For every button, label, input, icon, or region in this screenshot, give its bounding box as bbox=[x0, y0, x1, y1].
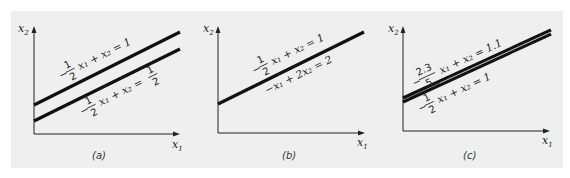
y-axis-label: x2 bbox=[18, 22, 29, 37]
x-axis-arrow-icon bbox=[173, 132, 180, 137]
y-axis-label: x2 bbox=[388, 22, 399, 37]
x-axis-label: x1 bbox=[357, 136, 368, 151]
panel-caption-b: (b) bbox=[282, 150, 296, 161]
panel-a: x2 x1 1 2 − x₁ + x₂ = 1 1 2 − x₁ + x₂ = … bbox=[18, 22, 183, 161]
svg-text:2: 2 bbox=[151, 75, 162, 88]
figure-canvas: x2 x1 1 2 − x₁ + x₂ = 1 1 2 − x₁ + x₂ = … bbox=[0, 0, 570, 178]
line-b-coincident bbox=[218, 32, 364, 104]
svg-text:x₁ + x₂ = 1: x₁ + x₂ = 1 bbox=[75, 35, 132, 72]
x-axis-arrow-icon bbox=[358, 131, 365, 136]
svg-text:2: 2 bbox=[68, 70, 79, 83]
x-axis-label: x1 bbox=[172, 138, 183, 153]
svg-text:2: 2 bbox=[427, 103, 437, 116]
x-axis-arrow-icon bbox=[543, 129, 550, 134]
svg-text:x₁ + x₂ =: x₁ + x₂ = bbox=[96, 76, 144, 108]
y-axis-arrow-icon bbox=[32, 26, 37, 33]
panel-caption-a: (a) bbox=[92, 150, 106, 161]
svg-text:2: 2 bbox=[261, 65, 272, 78]
panel-caption-c: (c) bbox=[463, 150, 476, 161]
x-axis-label: x1 bbox=[542, 134, 553, 149]
svg-text:2: 2 bbox=[89, 106, 100, 119]
panel-b: x2 x1 1 2 − x₁ + x₂ = 1 −x₁ + 2x₂ = 2 (b… bbox=[203, 22, 368, 161]
svg-text:1: 1 bbox=[145, 63, 156, 76]
panel-c: x2 x1 2.3 5 − x₁ + x₂ = 1.1 1 2 − x₁ + x… bbox=[388, 22, 553, 161]
svg-text:−: − bbox=[410, 75, 422, 89]
y-axis-label: x2 bbox=[203, 22, 214, 37]
y-axis-arrow-icon bbox=[401, 26, 406, 33]
y-axis-arrow-icon bbox=[216, 26, 221, 33]
